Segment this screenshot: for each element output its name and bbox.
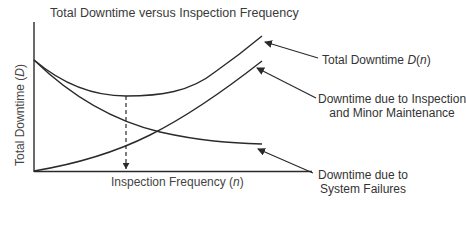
label-total-downtime: Total Downtime D(n) bbox=[322, 53, 431, 67]
label-total-var: D bbox=[407, 53, 416, 67]
curve-inspection-downtime bbox=[34, 61, 262, 171]
y-label-prefix: Total Downtime ( bbox=[13, 77, 27, 166]
x-label-var: n bbox=[233, 175, 240, 189]
label-failures-line2: System Failures bbox=[318, 182, 408, 196]
x-label-prefix: Inspection Frequency ( bbox=[111, 175, 233, 189]
y-label-var: D bbox=[13, 68, 27, 77]
label-inspection-line2: and Minor Maintenance bbox=[318, 106, 466, 120]
label-inspection-line1: Downtime due to Inspection bbox=[318, 92, 466, 106]
label-total-arg: n bbox=[420, 53, 427, 67]
y-axis-label: Total Downtime (D) bbox=[13, 64, 27, 166]
leader-arrow-total bbox=[265, 42, 318, 58]
label-total-text: Total Downtime bbox=[322, 53, 407, 67]
label-failures-line1: Downtime due to bbox=[318, 168, 408, 182]
x-axis-label: Inspection Frequency (n) bbox=[111, 175, 244, 189]
x-label-suffix: ) bbox=[240, 175, 244, 189]
leader-arrow-inspection bbox=[257, 68, 316, 98]
label-failure-downtime: Downtime due to System Failures bbox=[318, 168, 408, 196]
curve-failure-downtime bbox=[34, 60, 262, 144]
label-total-paren-close: ) bbox=[427, 53, 431, 67]
leader-arrow-failures bbox=[258, 149, 313, 173]
y-label-suffix: ) bbox=[13, 64, 27, 68]
label-inspection-downtime: Downtime due to Inspection and Minor Mai… bbox=[318, 92, 466, 120]
